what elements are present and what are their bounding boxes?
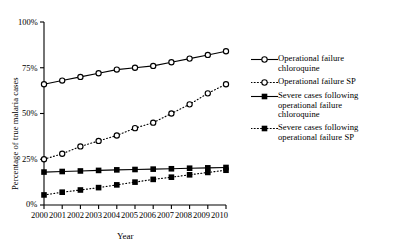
series-3-point-3 xyxy=(96,185,102,191)
series-2-point-6 xyxy=(150,166,156,172)
series-3-point-1 xyxy=(59,189,65,195)
series-3-point-8 xyxy=(187,172,193,178)
series-line-1 xyxy=(44,84,226,159)
series-0-point-7 xyxy=(169,60,174,65)
series-1-point-3 xyxy=(96,138,101,143)
series-3-point-5 xyxy=(132,179,138,185)
series-3-point-0 xyxy=(41,192,47,198)
series-1-point-2 xyxy=(78,144,83,149)
series-2-point-0 xyxy=(41,169,47,175)
series-2-point-5 xyxy=(132,167,138,173)
chart-legend: Operational failure chloroquine Operatio… xyxy=(251,54,409,146)
legend-key-filled-square-dotted xyxy=(251,123,278,134)
series-1-point-7 xyxy=(169,111,174,116)
series-0-point-5 xyxy=(132,65,137,70)
series-1-point-6 xyxy=(151,120,156,125)
series-0-point-9 xyxy=(205,52,210,57)
series-3-point-10 xyxy=(223,167,229,173)
series-0-point-4 xyxy=(114,67,119,72)
series-0-point-8 xyxy=(187,56,192,61)
series-0-point-3 xyxy=(96,71,101,76)
series-1-point-10 xyxy=(223,82,228,87)
legend-key-filled-square-solid xyxy=(251,91,278,102)
series-3-point-4 xyxy=(114,182,120,188)
series-3-point-2 xyxy=(78,187,84,193)
series-1-point-0 xyxy=(41,157,46,162)
series-3-point-6 xyxy=(150,177,156,183)
legend-label-3: Severe cases following operational failu… xyxy=(278,123,358,142)
legend-key-open-circle-dotted xyxy=(251,77,278,88)
series-3-point-7 xyxy=(169,174,175,180)
series-2-point-1 xyxy=(59,169,65,175)
series-3-point-9 xyxy=(205,170,211,176)
legend-label-2: Severe cases following operational failu… xyxy=(278,91,358,120)
legend-item-operational-failure-sp: Operational failure SP xyxy=(251,77,409,88)
series-0-point-6 xyxy=(151,63,156,68)
series-0-point-10 xyxy=(223,49,228,54)
legend-item-severe-cases-chloroquine: Severe cases following operational failu… xyxy=(251,91,409,120)
series-0-point-1 xyxy=(60,78,65,83)
legend-item-severe-cases-sp: Severe cases following operational failu… xyxy=(251,123,409,142)
series-0-point-2 xyxy=(78,74,83,79)
series-1-point-5 xyxy=(132,126,137,131)
legend-item-operational-failure-chloroquine: Operational failure chloroquine xyxy=(251,54,409,73)
series-1-point-1 xyxy=(60,151,65,156)
series-1-point-4 xyxy=(114,133,119,138)
series-2-point-3 xyxy=(96,168,102,174)
series-2-point-8 xyxy=(187,165,193,171)
series-2-point-4 xyxy=(114,167,120,173)
legend-label-0: Operational failure chloroquine xyxy=(278,54,344,73)
legend-key-open-circle-solid xyxy=(251,54,278,65)
chart-figure: Percentage of true malaria cases 100% 75… xyxy=(0,0,409,252)
legend-label-1: Operational failure SP xyxy=(278,77,356,87)
series-2-point-7 xyxy=(169,166,175,172)
series-1-point-8 xyxy=(187,102,192,107)
series-2-point-2 xyxy=(78,168,84,174)
series-1-point-9 xyxy=(205,91,210,96)
series-0-point-0 xyxy=(41,82,46,87)
